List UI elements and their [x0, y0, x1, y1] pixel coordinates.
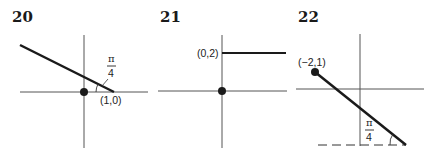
- origin-dot: [80, 88, 88, 96]
- figure-number: 21: [160, 8, 181, 26]
- angle-denominator: 4: [366, 131, 372, 143]
- origin-dot: [218, 87, 226, 95]
- figure-number: 22: [298, 8, 319, 26]
- figure-number: 20: [12, 8, 33, 26]
- angle-numerator: π: [108, 53, 115, 64]
- point-label: (0,2): [197, 47, 219, 59]
- angle-pointer: [102, 79, 108, 86]
- angle-denominator: 4: [108, 67, 114, 79]
- angle-numerator: π: [366, 117, 373, 128]
- endpoint-dot: [311, 68, 319, 76]
- figures-canvas: 20 π 4 (1,0) 21 (0,2) 22 (−2,1) π 4: [0, 0, 436, 157]
- point-label: (−2,1): [298, 56, 326, 68]
- point-label: (1,0): [100, 94, 122, 106]
- angle-arc: [96, 84, 98, 92]
- figure-21: 21 (0,2): [158, 8, 287, 148]
- figure-22: 22 (−2,1) π 4: [296, 8, 424, 146]
- figure-20: 20 π 4 (1,0): [12, 8, 148, 148]
- graph-line: [20, 45, 114, 92]
